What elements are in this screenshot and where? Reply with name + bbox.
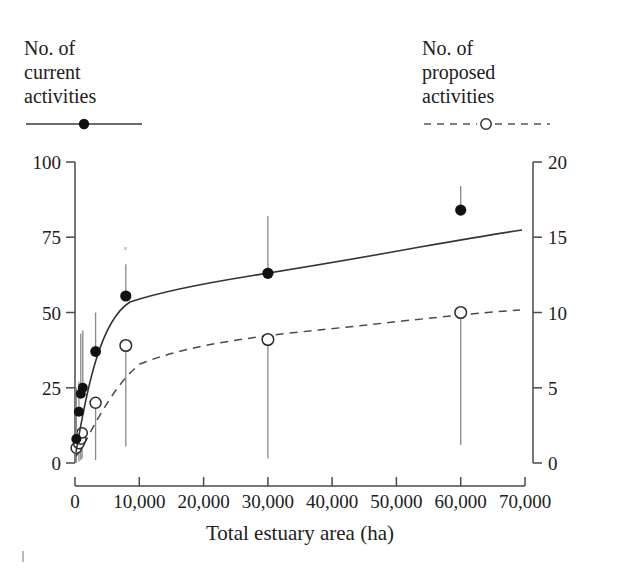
data-point-filled [120, 290, 131, 301]
x-tick-60000: 60,000 [435, 491, 487, 512]
data-point-filled [262, 268, 273, 279]
data-point-filled [71, 434, 81, 444]
scan-speck [22, 551, 24, 562]
x-tick-40000: 40,000 [306, 491, 358, 512]
x-tick-0: 0 [70, 491, 80, 512]
left-axis: 100 75 50 25 0 [33, 152, 76, 474]
series-current-activities [71, 186, 522, 452]
left-tick-0: 0 [52, 453, 62, 474]
left-tick-25: 25 [42, 378, 61, 399]
data-point-filled [78, 383, 88, 393]
data-point-open [262, 334, 274, 346]
x-axis: 0 10,000 20,000 30,000 40,000 50,000 60,… [70, 477, 551, 545]
left-tick-100: 100 [33, 152, 62, 173]
right-axis: 20 15 10 5 0 [533, 152, 567, 474]
x-tick-70000: 70,000 [499, 491, 551, 512]
data-point-filled [455, 205, 466, 216]
right-tick-20: 20 [548, 152, 567, 173]
x-tick-30000: 30,000 [242, 491, 294, 512]
right-tick-0: 0 [548, 453, 558, 474]
x-axis-title: Total estuary area (ha) [206, 521, 394, 545]
right-tick-10: 10 [548, 303, 567, 324]
scan-speck [124, 247, 127, 250]
x-tick-50000: 50,000 [370, 491, 422, 512]
plot-area: 100 75 50 25 0 20 15 10 5 0 [0, 0, 640, 574]
chart-figure: No. of current activities No. of propose… [0, 0, 640, 574]
left-tick-75: 75 [42, 227, 61, 248]
current-fit-curve [76, 230, 522, 452]
left-tick-50: 50 [42, 303, 61, 324]
data-point-open [90, 397, 101, 408]
x-tick-10000: 10,000 [113, 491, 165, 512]
right-tick-5: 5 [548, 378, 558, 399]
data-point-filled [74, 407, 84, 417]
proposed-fit-curve [76, 310, 520, 456]
x-tick-20000: 20,000 [177, 491, 229, 512]
data-point-open [120, 340, 132, 352]
data-point-filled [90, 346, 101, 357]
right-tick-15: 15 [548, 227, 567, 248]
data-point-open [455, 307, 467, 319]
series-proposed-activities [71, 307, 520, 463]
